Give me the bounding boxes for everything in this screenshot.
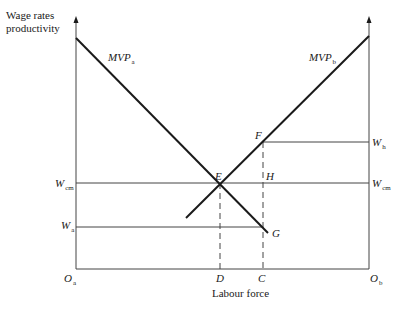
y-axis-label: Wage rates productivity	[6, 9, 60, 35]
point-c-label: C	[258, 272, 265, 284]
origin-b-label: Ob	[370, 272, 382, 289]
left-axis-arrow-icon	[74, 16, 79, 23]
point-h-label: H	[266, 170, 274, 182]
diagram-canvas	[0, 0, 399, 309]
x-axis-label: Labour force	[212, 287, 269, 299]
left-w-cm-label: Wcm	[55, 177, 74, 194]
right-w-cm-label: Wcm	[372, 177, 391, 194]
right-axis-arrow-icon	[367, 16, 372, 23]
left-w-a-label: Wa	[61, 219, 74, 236]
origin-a-label: Oa	[64, 272, 76, 289]
point-f-label: F	[255, 129, 262, 141]
mvp-a-curve	[76, 38, 268, 233]
mvp-b-curve	[186, 36, 369, 218]
right-w-h-label: Wh	[372, 136, 386, 153]
point-g-label: G	[272, 227, 280, 239]
point-e-label: E	[215, 170, 222, 182]
mvp-a-label: MVPa	[108, 51, 135, 68]
point-d-label: D	[216, 272, 224, 284]
y-axis-label-line1: Wage rates	[6, 9, 60, 22]
y-axis-label-line2: productivity	[6, 22, 60, 35]
mvp-b-label: MVPb	[309, 51, 336, 68]
